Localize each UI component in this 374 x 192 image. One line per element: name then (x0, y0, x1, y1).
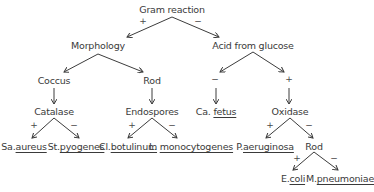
sign-minus-oxidase: − (305, 120, 313, 130)
node-morphology: Morphology (71, 40, 125, 51)
edge-root-morphology (127, 17, 172, 37)
node-catalase: Catalase (34, 106, 74, 117)
sign-plus-catalase: + (30, 120, 38, 130)
leaf-l-monocytogenes: L. monocytogenes (149, 141, 233, 152)
edge-morphology-rod (98, 54, 143, 72)
sign-plus-oxidase: + (266, 120, 274, 130)
sign-plus-gram: + (139, 16, 147, 26)
sign-minus-endospores: − (168, 120, 176, 130)
node-oxidase: Oxidase (272, 106, 309, 117)
leaf-st-pyogenes: St.pyogenes (48, 141, 105, 152)
leaf-m-pneumoniae: M.pneumoniae (306, 173, 374, 184)
node-coccus: Coccus (38, 75, 71, 86)
sign-plus-rod: + (293, 153, 301, 163)
edge-acid-plus (253, 52, 284, 72)
node-rod-2: Rod (305, 141, 322, 152)
leaf-e-coli: E.coli (281, 173, 305, 184)
sign-plus-endospores: + (128, 120, 136, 130)
leaf-p-aeruginosa: P.aeruginosa (236, 141, 294, 152)
node-gram-reaction: Gram reaction (139, 4, 205, 15)
leaf-sa-aureus: Sa.aureus (1, 141, 46, 152)
leaf-ca-fetus: Ca. fetus (196, 106, 237, 117)
edge-acid-minus (220, 52, 253, 72)
sign-minus-catalase: − (70, 120, 78, 130)
node-rod: Rod (143, 75, 160, 86)
sign-minus-acid: − (211, 74, 219, 84)
sign-minus-gram: − (194, 16, 202, 26)
node-endospores: Endospores (125, 106, 178, 117)
edge-morphology-coccus (64, 54, 98, 72)
sign-minus-rod: − (330, 153, 338, 163)
node-acid-from-glucose: Acid from glucose (212, 40, 294, 51)
sign-plus-acid: + (285, 74, 293, 84)
